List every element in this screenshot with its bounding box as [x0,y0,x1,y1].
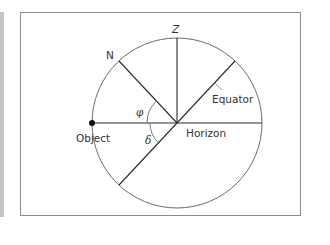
equator-label: Equator [212,93,254,105]
north-label: N [106,49,114,61]
object-label: Object [76,132,110,144]
object-dot [89,120,95,126]
horizon-label: Horizon [186,127,226,139]
delta-label: δ [145,134,151,146]
zenith-label: Z [171,23,180,35]
celestial-sphere-diagram: Z N Equator Horizon Object φ δ [0,0,330,245]
equator-leader [215,83,222,90]
phi-angle-arc [147,101,157,123]
phi-label: φ [136,106,144,118]
